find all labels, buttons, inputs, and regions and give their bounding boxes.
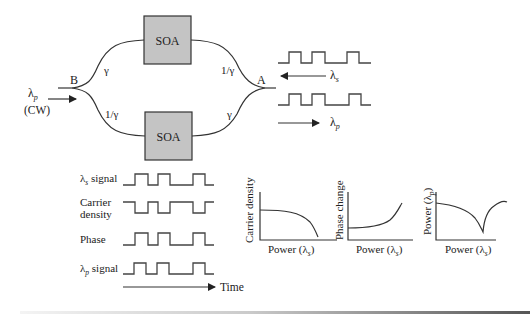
probe-pulse-train xyxy=(278,94,371,105)
chart1-xlabel: Power (λs) xyxy=(268,243,315,258)
chart1-axes xyxy=(260,192,337,240)
output-signals: λs λp xyxy=(278,52,371,131)
port-a-label: A xyxy=(257,73,266,87)
chart2-curve xyxy=(348,203,402,228)
chart1-curve xyxy=(260,210,318,237)
chart-probe-power: Power (λp) Power (λs) xyxy=(421,187,507,258)
coupling-bottom-right: γ xyxy=(226,108,232,120)
signal-pulse-train xyxy=(278,52,371,63)
chart3-ylabel: Power (λp) xyxy=(421,187,436,235)
chart1-ylabel: Carrier density xyxy=(243,177,255,243)
soa-mzi-diagram: SOA SOA B A γ 1/γ 1/γ γ λp (CW) λs λp λs… xyxy=(0,0,530,314)
input-lambda: λp xyxy=(28,86,38,102)
coupling-top-left: γ xyxy=(103,64,109,76)
waveform-signal-p xyxy=(123,263,214,274)
input-mode: (CW) xyxy=(24,104,50,117)
soa-bottom-label: SOA xyxy=(156,130,180,144)
soa-top-label: SOA xyxy=(155,34,179,48)
waveform-carrier-density xyxy=(123,202,214,213)
timing-label-carrier-2: density xyxy=(80,208,112,220)
waveform-phase xyxy=(123,233,214,245)
timing-label-carrier-1: Carrier xyxy=(80,196,111,208)
chart2-xlabel: Power (λs) xyxy=(356,243,403,258)
coupling-bottom-left: 1/γ xyxy=(105,108,119,120)
signal-lambda-label: λs xyxy=(330,68,339,84)
chart-carrier-density: Carrier density Power (λs) xyxy=(243,177,337,258)
chart3-xlabel: Power (λs) xyxy=(445,243,492,258)
chart3-curve xyxy=(436,201,507,232)
time-label: Time xyxy=(220,281,244,293)
coupling-top-right: 1/γ xyxy=(221,64,235,76)
chart2-ylabel: Phase change xyxy=(333,180,345,240)
chart2-axes xyxy=(348,192,413,240)
timing-label-signal-s: λs signal xyxy=(80,172,117,187)
port-b-label: B xyxy=(70,73,78,87)
timing-label-signal-p: λp signal xyxy=(80,262,118,277)
timing-label-phase: Phase xyxy=(80,233,106,245)
chart-phase-change: Phase change Power (λs) xyxy=(333,180,413,258)
waveform-signal-s xyxy=(123,174,214,185)
timing-diagram: λs signal Carrier density Phase λp signa… xyxy=(80,172,244,293)
probe-lambda-label: λp xyxy=(330,115,340,131)
interferometer: SOA SOA B A γ 1/γ 1/γ γ λp (CW) xyxy=(24,16,276,160)
